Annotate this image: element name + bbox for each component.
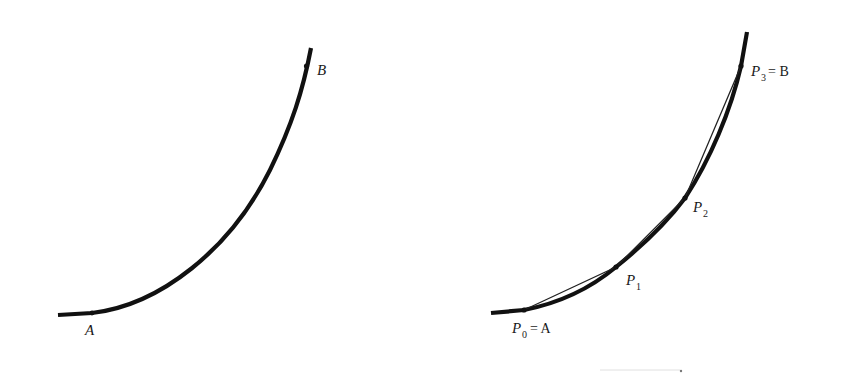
point-p2 [682, 195, 687, 200]
left-panel: A B [58, 48, 326, 338]
label-p0: P 0 = A [511, 320, 552, 340]
point-p3 [738, 63, 743, 68]
svg-text:= B: = B [768, 64, 789, 79]
label-b: B [317, 62, 326, 78]
point-b [304, 63, 309, 68]
svg-text:3: 3 [761, 72, 766, 83]
curve-right [491, 32, 747, 313]
label-a: A [84, 322, 95, 338]
point-a [90, 311, 95, 316]
label-p2: P 2 [692, 199, 708, 219]
point-p0 [521, 307, 526, 312]
label-p3: P 3 = B [750, 63, 789, 83]
label-p1: P 1 [625, 272, 641, 292]
svg-text:2: 2 [703, 208, 708, 219]
right-panel: P 0 = A P 1 P 2 P 3 = B [491, 32, 789, 340]
svg-text:P: P [511, 320, 521, 336]
arc-length-figure: A B P 0 = A P 1 P 2 P [0, 0, 842, 380]
svg-text:= A: = A [530, 321, 552, 336]
svg-text:1: 1 [636, 281, 641, 292]
svg-text:P: P [625, 272, 635, 288]
label-p0-eq: = A [530, 321, 552, 336]
svg-text:P: P [692, 199, 702, 215]
label-p3-eq: = B [768, 64, 789, 79]
scan-artifact-dot [680, 370, 682, 372]
svg-text:0: 0 [522, 329, 527, 340]
svg-text:P: P [750, 63, 760, 79]
point-p1 [613, 264, 618, 269]
curve-left [58, 48, 311, 315]
